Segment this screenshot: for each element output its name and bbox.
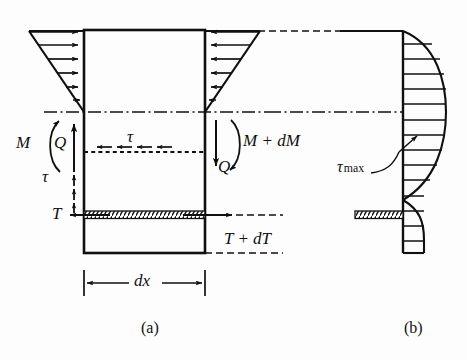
label-moment-left: M [16,134,30,151]
figure-background [0,0,467,360]
tau-max-subscript: max [343,161,364,175]
label-moment-right: M + dM [243,132,300,149]
axial-layer-hatched-band-b [355,211,403,219]
caption-panel-a: (a) [141,320,159,336]
label-dx: dx [134,272,150,289]
label-axial-right: T + dT [224,230,271,247]
label-tau-layer: τ [127,128,133,145]
label-tau-max: τmax [337,159,364,175]
figure-container: M Q τ T τ M + dM Q T + dT dx τmax (a) (b… [0,0,467,360]
label-axial-left: T [52,205,61,222]
label-shear-right: Q [218,158,230,175]
beam-shear-diagram [0,0,467,360]
caption-panel-b: (b) [404,320,423,336]
tau-max-symbol: τ [337,158,343,175]
label-tau-left: τ [42,168,48,185]
label-shear-left: Q [54,134,66,151]
